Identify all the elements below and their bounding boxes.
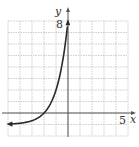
x-axis-label: x [130,113,137,126]
y-tick-label: 8 [56,18,63,31]
y-axis-label: y [54,5,62,18]
curve-arrow-top-icon [65,19,70,25]
curve [10,27,67,124]
x-tick-label: 5 [119,114,126,127]
curve-arrow-left-icon [6,121,12,126]
exponential-graph: y 8 5 x [0,0,139,147]
